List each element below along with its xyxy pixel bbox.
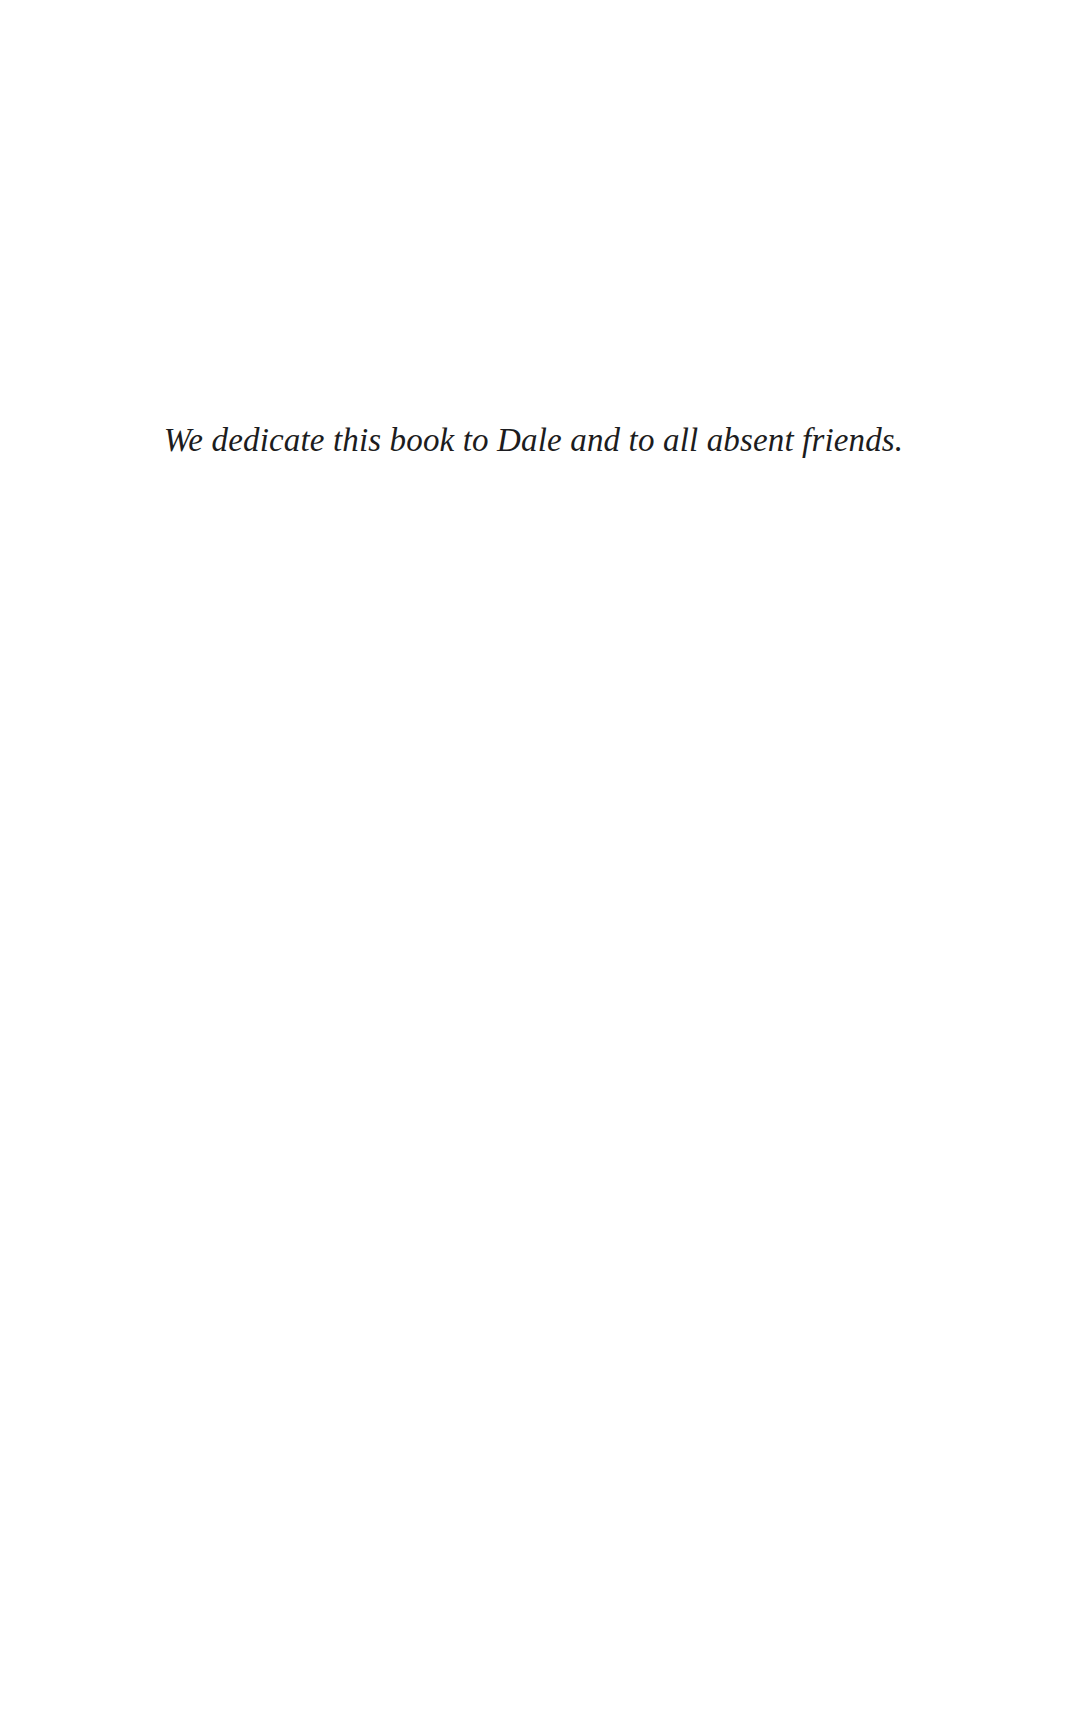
dedication-block: We dedicate this book to Dale and to all… xyxy=(0,418,1073,462)
page-background xyxy=(0,0,1073,1716)
dedication-text: We dedicate this book to Dale and to all… xyxy=(164,418,904,462)
document-page: We dedicate this book to Dale and to all… xyxy=(0,0,1073,1716)
